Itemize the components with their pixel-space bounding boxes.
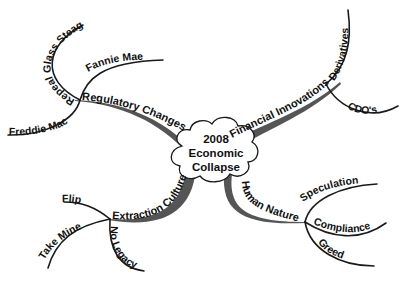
node-cdos: CDO's: [346, 99, 378, 116]
center-line-2: Economic: [189, 147, 245, 159]
mind-map: 2008 Economic Collapse Regulatory Change…: [0, 0, 404, 281]
center-line-3: Collapse: [192, 161, 240, 173]
branch-label-extraction-culture: Extraction Culture: [112, 173, 188, 222]
center-line-1: 2008: [203, 133, 229, 145]
node-no-legacy: No Legacy: [108, 226, 139, 271]
node-derivatives: Derivatives: [326, 27, 351, 82]
node-fannie-mae: Fannie Mae: [83, 50, 143, 74]
node-freddie-mac: Freddie Mac: [9, 114, 70, 137]
node-take-mine: Take Mine: [36, 220, 83, 262]
node-flip: Flip: [62, 192, 83, 206]
node-repeal-glass-steagal: Repeal Glass Steagal: [0, 0, 85, 109]
branch-label-financial-innovations: Financial Innovations: [227, 75, 331, 139]
node-greed: Greed: [316, 236, 346, 261]
branch-label-regulatory-changes: Regulatory Changes: [82, 90, 189, 133]
twig-flip: [64, 202, 110, 219]
node-compliance: Compliance: [312, 215, 372, 234]
